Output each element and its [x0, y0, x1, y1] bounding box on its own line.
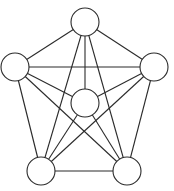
edge-right-bottom-right — [127, 67, 154, 171]
node-left — [1, 53, 29, 81]
edge-left-bottom-left — [15, 67, 41, 171]
graph-diagram — [0, 0, 174, 191]
node-center — [71, 89, 99, 117]
node-bottom-left — [27, 157, 55, 185]
edge-left-bottom-right — [15, 67, 127, 171]
node-bottom-right — [113, 157, 141, 185]
edge-right-bottom-left — [41, 67, 154, 171]
nodes-layer — [1, 8, 168, 185]
node-right — [140, 53, 168, 81]
node-top — [71, 8, 99, 36]
